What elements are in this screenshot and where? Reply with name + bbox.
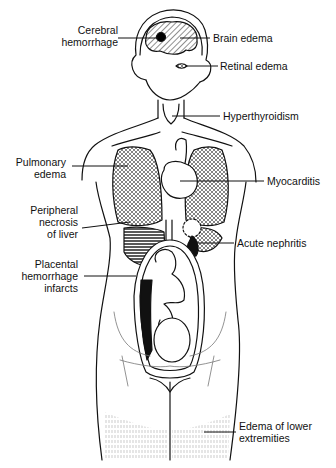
label-brain-edema: Brain edema (213, 32, 273, 44)
label-line: extremities (239, 432, 312, 444)
label-line: Acute nephritis (237, 237, 306, 249)
anatomical-diagram: Cerebral hemorrhage Brain edema Retinal … (0, 0, 336, 468)
label-line: Retinal edema (220, 60, 288, 72)
label-line: Cerebral (52, 24, 118, 36)
label-line: edema (4, 168, 66, 180)
label-line: hemorrhage (52, 36, 118, 48)
label-line: Peripheral (10, 204, 78, 216)
label-line: Myocarditis (267, 175, 320, 187)
label-line: Hyperthyroidism (223, 110, 299, 122)
label-peripheral-necrosis-of-liver: Peripheral necrosis of liver (10, 204, 78, 240)
label-line: Placental (10, 258, 78, 270)
uterus (134, 240, 204, 378)
label-line: Edema of lower (239, 420, 312, 432)
label-edema-of-lower-extremities: Edema of lower extremities (239, 420, 312, 444)
label-line: Pulmonary (4, 156, 66, 168)
heart (161, 138, 197, 198)
label-myocarditis: Myocarditis (267, 175, 320, 187)
label-acute-nephritis: Acute nephritis (237, 237, 306, 249)
label-pulmonary-edema: Pulmonary edema (4, 156, 66, 180)
label-line: necrosis (10, 216, 78, 228)
label-cerebral-hemorrhage: Cerebral hemorrhage (52, 24, 118, 48)
label-line: of liver (10, 228, 78, 240)
label-retinal-edema: Retinal edema (220, 60, 288, 72)
label-line: infarcts (10, 282, 78, 294)
label-placental-hemorrhage-infarcts: Placental hemorrhage infarcts (10, 258, 78, 294)
label-line: Brain edema (213, 32, 273, 44)
label-line: hemorrhage (10, 270, 78, 282)
label-hyperthyroidism: Hyperthyroidism (223, 110, 299, 122)
